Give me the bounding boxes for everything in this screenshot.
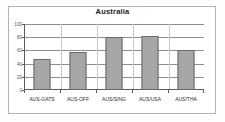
x-axis-category-label: AUS-OFF <box>67 96 89 103</box>
y-axis-tick-label: 40 <box>2 61 22 66</box>
bar[interactable] <box>178 50 195 90</box>
x-axis-tick-mark <box>60 90 61 93</box>
y-axis-labels: 020406080100 <box>0 24 22 90</box>
chart-title: Australia <box>0 7 225 16</box>
x-axis-category-label: AUS/THA <box>175 96 197 103</box>
bar[interactable] <box>106 37 123 90</box>
x-axis-tick-mark <box>168 90 169 93</box>
x-axis-labels: AUS-GATSAUS-OFFAUS/SINGAUS/USAAUS/THA <box>24 96 204 106</box>
bar-slot <box>60 24 96 90</box>
y-axis-tick-label: 20 <box>2 74 22 79</box>
y-axis-tick-label: 80 <box>2 35 22 40</box>
x-axis-tick-mark <box>24 90 25 93</box>
x-axis-tick-mark <box>96 90 97 93</box>
bar-slot <box>132 24 168 90</box>
bar-slot <box>24 24 60 90</box>
bar-slot <box>96 24 132 90</box>
x-axis-tick-mark <box>203 90 204 93</box>
bar[interactable] <box>70 52 87 90</box>
y-axis-tick-label: 0 <box>2 88 22 93</box>
bar[interactable] <box>142 36 159 90</box>
x-axis-tick-marks <box>24 90 204 93</box>
y-axis-tick-label: 60 <box>2 48 22 53</box>
chart-figure: Australia 020406080100 AUS-GATSAUS-OFFAU… <box>0 0 225 122</box>
y-axis-tick-label: 100 <box>2 22 22 27</box>
x-axis-category-label: AUS/USA <box>139 96 161 103</box>
x-axis-category-label: AUS/SING <box>102 96 126 103</box>
bar-slot <box>168 24 204 90</box>
x-axis-tick-mark <box>132 90 133 93</box>
bar[interactable] <box>34 59 51 90</box>
x-axis-category-label: AUS-GATS <box>29 96 54 103</box>
bars-group <box>24 24 204 90</box>
